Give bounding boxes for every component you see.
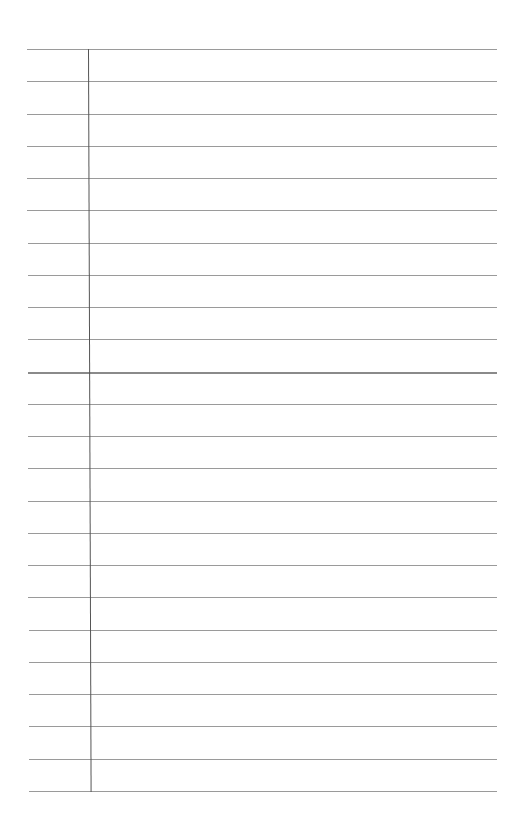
ruled-line: [29, 662, 497, 663]
ruled-line: [27, 178, 497, 179]
ruled-line: [28, 501, 497, 502]
ruled-line: [28, 243, 497, 244]
ruled-line: [27, 49, 497, 50]
ruled-line: [28, 533, 497, 534]
ruled-line: [29, 726, 497, 727]
ruled-line: [29, 759, 497, 760]
ruled-line: [27, 146, 497, 147]
ruled-line: [29, 791, 497, 792]
ruled-line: [28, 372, 497, 374]
ruled-line: [28, 468, 497, 469]
ruled-line: [28, 339, 497, 340]
ruled-line: [29, 694, 497, 695]
ruled-line: [28, 597, 497, 598]
ruled-line: [27, 114, 497, 115]
ruled-line: [28, 565, 497, 566]
ruled-line: [28, 307, 497, 308]
ruled-line: [28, 436, 497, 437]
ruled-line: [28, 275, 497, 276]
ruled-line: [27, 210, 497, 211]
ruled-line: [29, 630, 497, 631]
margin-line: [88, 49, 92, 792]
ruled-line: [28, 404, 497, 405]
ruled-line: [27, 81, 497, 82]
